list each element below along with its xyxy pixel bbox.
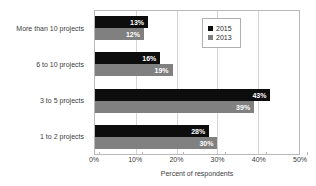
bar-2013-3-to-5-projects: 39% <box>95 101 254 113</box>
bar-group-3-to-5-projects: 43% 39% <box>95 84 299 120</box>
bar-group-more-than-10-projects: 13% 12% <box>95 11 299 47</box>
x-tick-0: 0% <box>89 156 99 163</box>
legend-label: 2013 <box>216 34 232 41</box>
bar-value-label: 12% <box>126 31 140 38</box>
x-tick-40: 40% <box>252 156 266 163</box>
bar-value-label: 43% <box>252 91 266 98</box>
legend-label: 2015 <box>216 25 232 32</box>
x-tick-10: 10% <box>128 156 142 163</box>
bar-2013-1-to-2-projects: 30% <box>95 137 217 149</box>
category-label-more-than-10-projects: More than 10 projects <box>16 10 84 46</box>
legend-item-2013: 2013 <box>208 34 232 41</box>
bar-2015-more-than-10-projects: 13% <box>95 16 148 28</box>
category-label-6-to-10-projects: 6 to 10 projects <box>36 46 84 82</box>
x-axis-title: Percent of respondents <box>94 170 300 177</box>
bar-2015-3-to-5-projects: 43% <box>95 89 270 101</box>
x-tick-30: 30% <box>211 156 225 163</box>
chart-legend: 2015 2013 <box>202 18 241 48</box>
bar-chart: 13% 12% 16% 19% 43% 39% <box>0 0 316 186</box>
bar-group-1-to-2-projects: 28% 30% <box>95 120 299 156</box>
plot-area: 13% 12% 16% 19% 43% 39% <box>94 10 300 155</box>
bar-value-label: 39% <box>236 103 250 110</box>
bar-value-label: 13% <box>130 19 144 26</box>
bar-value-label: 28% <box>191 127 205 134</box>
bar-2013-6-to-10-projects: 19% <box>95 64 173 76</box>
bar-value-label: 16% <box>142 55 156 62</box>
legend-swatch-icon <box>208 35 213 40</box>
category-axis: More than 10 projects 6 to 10 projects 3… <box>0 10 90 155</box>
x-tick-50: 50% <box>293 156 307 163</box>
bar-value-label: 19% <box>155 67 169 74</box>
bar-2015-6-to-10-projects: 16% <box>95 52 160 64</box>
category-label-1-to-2-projects: 1 to 2 projects <box>40 119 84 155</box>
category-label-3-to-5-projects: 3 to 5 projects <box>40 83 84 119</box>
bar-groups: 13% 12% 16% 19% 43% 39% <box>95 11 299 154</box>
bar-2013-more-than-10-projects: 12% <box>95 28 144 40</box>
x-axis-ticks: 0% 10% 20% 30% 40% 50% <box>94 156 300 168</box>
legend-swatch-icon <box>208 26 213 31</box>
bar-value-label: 30% <box>199 139 213 146</box>
x-tick-20: 20% <box>169 156 183 163</box>
bar-2015-1-to-2-projects: 28% <box>95 125 209 137</box>
bar-group-6-to-10-projects: 16% 19% <box>95 47 299 83</box>
legend-item-2015: 2015 <box>208 25 232 32</box>
